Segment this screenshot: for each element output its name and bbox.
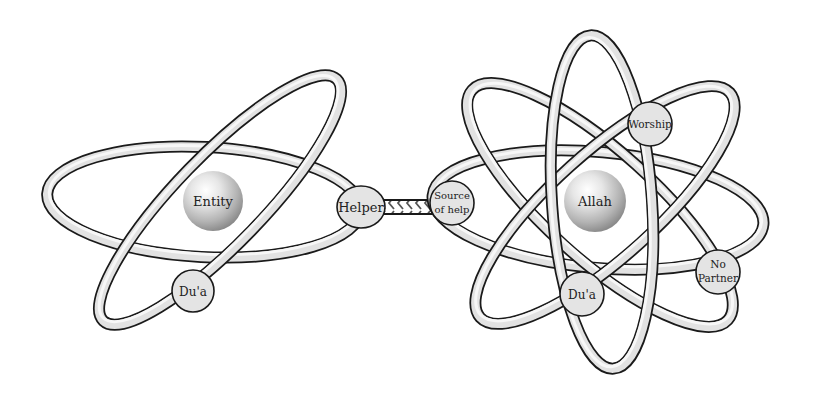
no-partner-node: No Partner bbox=[696, 250, 740, 294]
entity-nucleus: Entity bbox=[183, 171, 243, 231]
allah-nucleus: Allah bbox=[564, 170, 626, 232]
no-partner-label-line2: Partner bbox=[698, 272, 739, 284]
entity-label: Entity bbox=[193, 194, 233, 209]
dua-left-label: Du'a bbox=[179, 285, 207, 299]
dua-right-node: Du'a bbox=[560, 272, 604, 316]
dua-left-node: Du'a bbox=[172, 270, 214, 312]
source-of-help-label-line1: Source bbox=[434, 190, 470, 201]
source-of-help-node: Source of help bbox=[430, 181, 474, 225]
helper-label: Helper bbox=[338, 200, 384, 215]
left-atom: Entity Du'a bbox=[44, 48, 368, 352]
worship-label: Worship bbox=[628, 118, 672, 130]
dua-right-label: Du'a bbox=[568, 288, 596, 302]
helper-node: Helper bbox=[337, 186, 385, 228]
atom-diagram: Entity Du'a Helper bbox=[0, 0, 813, 396]
allah-label: Allah bbox=[577, 194, 612, 209]
worship-node: Worship bbox=[628, 102, 672, 146]
right-atom: Allah Worship Du'a No Partner Source of … bbox=[428, 32, 769, 372]
no-partner-label-line1: No bbox=[710, 258, 726, 270]
source-of-help-label-line2: of help bbox=[435, 204, 470, 215]
